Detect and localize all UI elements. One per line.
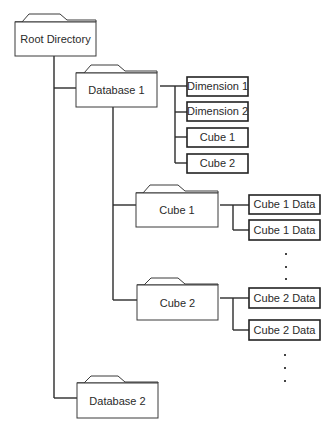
- cube-1-data-label-2: Cube 1 Data: [249, 225, 320, 236]
- directory-tree-diagram: [0, 0, 334, 433]
- dimension-1-label: Dimension 1: [187, 81, 248, 92]
- root-directory-label: Root Directory: [15, 34, 96, 45]
- cube-2-data-label-1: Cube 2 Data: [249, 293, 320, 304]
- cube-1-data-label-1: Cube 1 Data: [249, 199, 320, 210]
- db1-cube-1-label: Cube 1: [187, 132, 248, 143]
- cube-1-folder-label: Cube 1: [136, 205, 218, 216]
- continuation-dots-icon: [284, 253, 287, 382]
- cube-2-folder-label: Cube 2: [137, 298, 218, 309]
- dimension-2-label: Dimension 2: [187, 106, 248, 117]
- db1-cube-2-label: Cube 2: [187, 158, 248, 169]
- cube-2-data-label-2: Cube 2 Data: [249, 325, 320, 336]
- database-2-label: Database 2: [77, 396, 158, 407]
- database-1-label: Database 1: [76, 85, 157, 96]
- folder-shapes: [15, 14, 218, 418]
